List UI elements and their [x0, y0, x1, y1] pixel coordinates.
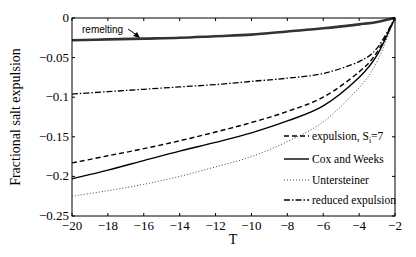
x-tick-label: −10	[241, 218, 261, 233]
legend-label-reduced: reduced expulsion	[312, 194, 396, 207]
legend-label-cox-weeks: Cox and Weeks	[312, 153, 384, 165]
x-tick-label: −2	[388, 218, 402, 233]
legend: expulsion, Si=7 Cox and Weeks Unterstein…	[284, 130, 396, 207]
remelting-annotation: remelting	[82, 24, 123, 35]
x-tick-label: −18	[98, 218, 118, 233]
x-tick-label: −16	[134, 218, 155, 233]
legend-label-expulsion: expulsion, Si=7	[312, 130, 384, 145]
plot-area	[72, 18, 395, 196]
x-tick-label: −4	[352, 218, 366, 233]
legend-label-untersteiner: Untersteiner	[312, 174, 369, 186]
chart: −20−18−16−14−12−10−8−6−4−2 0−0.05−0.1−0.…	[0, 0, 416, 257]
y-tick-label: −0.1	[45, 89, 69, 104]
y-axis-label: Fractional salt expulsion	[8, 48, 23, 186]
y-axis: 0−0.05−0.1−0.15−0.2−0.25	[39, 10, 395, 223]
x-tick-label: −14	[169, 218, 190, 233]
y-tick-label: −0.15	[39, 129, 69, 144]
series-untersteiner	[72, 18, 395, 196]
arrow-icon	[128, 29, 140, 38]
x-tick-label: −12	[205, 218, 225, 233]
y-tick-label: −0.2	[45, 168, 69, 183]
y-tick-label: 0	[63, 10, 70, 25]
y-tick-label: −0.05	[39, 50, 69, 65]
x-axis-label: T	[229, 232, 238, 247]
x-tick-label: −8	[280, 218, 294, 233]
x-tick-label: −6	[316, 218, 330, 233]
axes-box	[72, 18, 395, 216]
y-tick-label: −0.25	[39, 208, 69, 223]
